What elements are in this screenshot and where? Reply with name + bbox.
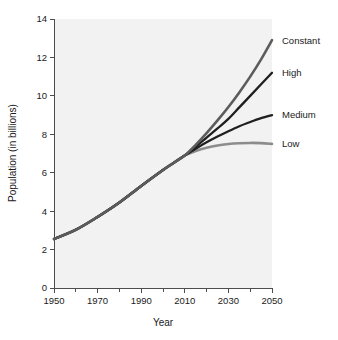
y-tick-label: 4 bbox=[42, 206, 47, 217]
x-tick-label: 1950 bbox=[43, 295, 64, 306]
series-label-constant: Constant bbox=[282, 35, 320, 46]
y-tick-label: 2 bbox=[42, 244, 47, 255]
x-tick-label: 2030 bbox=[218, 295, 239, 306]
x-tick-label: 1990 bbox=[131, 295, 152, 306]
series-label-high: High bbox=[282, 67, 302, 78]
y-tick-label: 8 bbox=[42, 129, 47, 140]
y-tick-label: 10 bbox=[36, 90, 47, 101]
plot-area-background bbox=[54, 19, 272, 288]
y-tick-label: 0 bbox=[42, 282, 47, 293]
y-tick-label: 14 bbox=[36, 13, 47, 24]
x-tick-label: 2010 bbox=[174, 295, 195, 306]
y-tick-label: 6 bbox=[42, 167, 47, 178]
series-label-low: Low bbox=[282, 138, 300, 149]
y-tick-label: 12 bbox=[36, 52, 47, 63]
x-tick-label: 2050 bbox=[261, 295, 282, 306]
y-axis-title: Population (in billions) bbox=[7, 104, 18, 202]
population-projection-chart-figure: ConstantHighMediumLow 02468101214 195019… bbox=[0, 0, 338, 340]
series-label-medium: Medium bbox=[282, 109, 316, 120]
chart-canvas: ConstantHighMediumLow 02468101214 195019… bbox=[0, 0, 338, 340]
x-tick-label: 1970 bbox=[87, 295, 108, 306]
x-axis-title: Year bbox=[153, 317, 174, 328]
